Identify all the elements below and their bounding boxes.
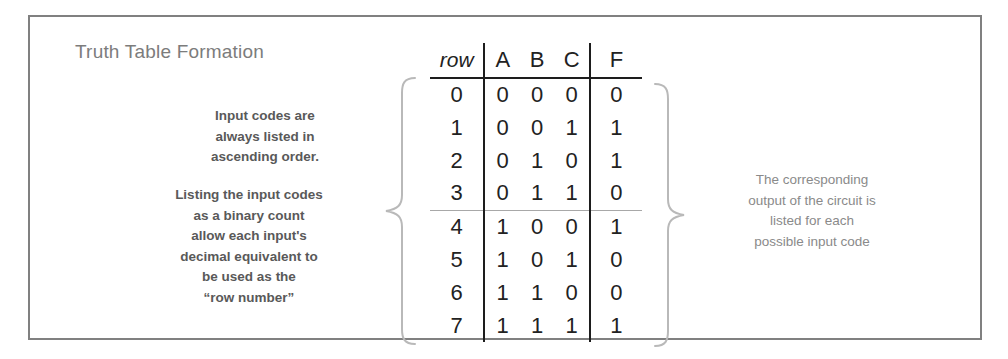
cell-c: 0	[554, 211, 590, 244]
cell-b: 0	[520, 211, 554, 244]
note-line: be used as the	[134, 267, 364, 288]
note-line: “row number”	[134, 288, 364, 309]
cell-a: 1	[484, 310, 519, 343]
note-line: output of the circuit is	[702, 191, 922, 212]
truth-table-header: row A B C F	[430, 43, 642, 78]
cell-f: 1	[590, 145, 642, 178]
cell-a: 0	[484, 78, 519, 112]
cell-b: 1	[520, 310, 554, 343]
note-line: Listing the input codes	[134, 185, 364, 206]
table-row: 0 0 0 0 0	[430, 78, 642, 112]
cell-a: 1	[484, 211, 519, 244]
cell-a: 0	[484, 145, 519, 178]
table-row: 5 1 0 1 0	[430, 244, 642, 277]
column-header-b: B	[520, 43, 554, 78]
cell-row: 3	[430, 177, 484, 210]
note-line: ascending order.	[150, 147, 380, 168]
note-line: listed for each	[702, 211, 922, 232]
table-row: 3 0 1 1 0	[430, 177, 642, 210]
cell-f: 0	[590, 177, 642, 210]
cell-f: 0	[590, 244, 642, 277]
cell-row: 0	[430, 78, 484, 112]
cell-row: 2	[430, 145, 484, 178]
cell-a: 0	[484, 112, 519, 145]
cell-c: 0	[554, 78, 590, 112]
cell-f: 0	[590, 277, 642, 310]
note-line: always listed in	[150, 127, 380, 148]
note-line: allow each input's	[134, 226, 364, 247]
cell-a: 1	[484, 277, 519, 310]
binary-count-note: Listing the input codes as a binary coun…	[134, 185, 364, 308]
table-row: 4 1 0 0 1	[430, 211, 642, 244]
slide-frame: Truth Table Formation Input codes are al…	[28, 15, 982, 340]
cell-b: 1	[520, 177, 554, 210]
table-row: 2 0 1 0 1	[430, 145, 642, 178]
cell-a: 1	[484, 244, 519, 277]
note-line: possible input code	[702, 232, 922, 253]
column-header-f: F	[590, 43, 642, 78]
right-curly-brace-icon	[650, 81, 690, 349]
cell-b: 0	[520, 244, 554, 277]
note-line: Input codes are	[150, 106, 380, 127]
cell-f: 1	[590, 211, 642, 244]
cell-row: 6	[430, 277, 484, 310]
cell-c: 0	[554, 277, 590, 310]
cell-c: 1	[554, 112, 590, 145]
cell-c: 1	[554, 177, 590, 210]
cell-c: 1	[554, 244, 590, 277]
cell-row: 1	[430, 112, 484, 145]
ascending-order-note: Input codes are always listed in ascendi…	[150, 106, 380, 168]
page-title: Truth Table Formation	[75, 41, 264, 63]
cell-c: 0	[554, 145, 590, 178]
truth-table-body: 0 0 0 0 0 1 0 0 1 1 2 0 1 0	[430, 78, 642, 342]
column-header-row: row	[430, 43, 484, 78]
table-row: 6 1 1 0 0	[430, 277, 642, 310]
cell-b: 1	[520, 277, 554, 310]
column-header-c: C	[554, 43, 590, 78]
note-line: decimal equivalent to	[134, 247, 364, 268]
column-header-a: A	[484, 43, 519, 78]
cell-b: 0	[520, 112, 554, 145]
cell-row: 5	[430, 244, 484, 277]
note-line: as a binary count	[134, 206, 364, 227]
cell-f: 1	[590, 310, 642, 343]
cell-row: 7	[430, 310, 484, 343]
output-note: The corresponding output of the circuit …	[702, 170, 922, 252]
truth-table: row A B C F 0 0 0 0 0 1 0 0	[430, 43, 642, 342]
table-header-row: row A B C F	[430, 43, 642, 78]
table-row: 7 1 1 1 1	[430, 310, 642, 343]
cell-c: 1	[554, 310, 590, 343]
table-row: 1 0 0 1 1	[430, 112, 642, 145]
note-line: The corresponding	[702, 170, 922, 191]
cell-f: 1	[590, 112, 642, 145]
cell-b: 1	[520, 145, 554, 178]
cell-f: 0	[590, 78, 642, 112]
cell-a: 0	[484, 177, 519, 210]
cell-row: 4	[430, 211, 484, 244]
cell-b: 0	[520, 78, 554, 112]
truth-table-grid: row A B C F 0 0 0 0 0 1 0 0	[430, 43, 642, 342]
left-curly-brace-icon	[382, 75, 418, 347]
